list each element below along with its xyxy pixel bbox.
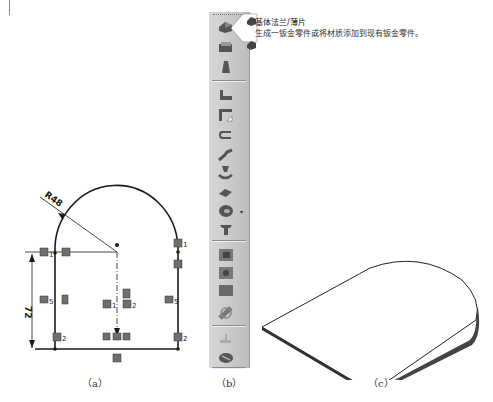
lofted-bend-icon bbox=[217, 59, 235, 75]
corner-relief-icon bbox=[217, 265, 235, 281]
insert-bends-button[interactable] bbox=[215, 330, 237, 348]
caption-a: （a） bbox=[82, 375, 108, 390]
hem-button[interactable] bbox=[215, 126, 237, 144]
edge-flange-button[interactable] bbox=[215, 86, 237, 104]
tooltip-title: 基体法兰/薄片 bbox=[255, 16, 306, 27]
closed-corner-button[interactable] bbox=[215, 202, 237, 220]
radius-dimension: R48 bbox=[43, 189, 65, 208]
jog-button[interactable] bbox=[215, 146, 237, 164]
sketched-bend-icon bbox=[217, 165, 235, 181]
sketched-bend-button[interactable] bbox=[215, 164, 237, 182]
svg-text:5: 5 bbox=[49, 298, 53, 306]
cross-break-icon bbox=[217, 185, 235, 201]
height-dimension: 72 bbox=[23, 306, 33, 319]
lofted-bend-button[interactable] bbox=[215, 58, 237, 76]
welded-corner-icon bbox=[217, 221, 235, 237]
insert-bends-icon bbox=[217, 331, 235, 347]
svg-text:2: 2 bbox=[183, 335, 187, 343]
tooltip: 基体法兰/薄片 生成一钣金零件或将材质添加到现有钣金零件。 bbox=[255, 16, 445, 52]
sheet-metal-toolbar-lower bbox=[209, 296, 250, 368]
edge-marker bbox=[9, 0, 10, 15]
caption-c: （c） bbox=[368, 375, 394, 390]
welded-corner-button[interactable] bbox=[215, 220, 237, 238]
miter-flange-icon bbox=[217, 107, 235, 123]
no-bends-button[interactable] bbox=[215, 304, 237, 322]
svg-text:5: 5 bbox=[174, 298, 178, 306]
rip-icon bbox=[217, 349, 235, 365]
break-corner-button[interactable] bbox=[215, 246, 237, 264]
sheet-metal-part bbox=[250, 180, 493, 380]
tooltip-description: 生成一钣金零件或将材质添加到现有钣金零件。 bbox=[255, 28, 445, 40]
edge-flange-icon bbox=[217, 87, 235, 103]
svg-text:1: 1 bbox=[49, 251, 53, 259]
toolbar-separator bbox=[212, 80, 246, 82]
svg-text:2: 2 bbox=[132, 302, 136, 310]
svg-text:2: 2 bbox=[62, 335, 66, 343]
closed-corner-icon bbox=[217, 203, 235, 219]
cross-break-button[interactable] bbox=[215, 184, 237, 202]
break-corner-icon bbox=[217, 247, 235, 263]
jog-icon bbox=[217, 147, 235, 163]
toolbar-separator bbox=[212, 367, 246, 369]
no-bends-icon bbox=[217, 305, 235, 321]
toolbar-separator bbox=[212, 240, 246, 242]
hem-icon bbox=[217, 127, 235, 143]
closed-corner-dropdown-icon[interactable]: ▾ bbox=[240, 208, 243, 215]
svg-text:1: 1 bbox=[183, 241, 187, 249]
corner-relief-button[interactable] bbox=[215, 264, 237, 282]
caption-b: （b） bbox=[216, 375, 242, 390]
svg-text:1: 1 bbox=[112, 302, 116, 310]
miter-flange-button[interactable] bbox=[215, 106, 237, 124]
rip-button[interactable] bbox=[215, 348, 237, 366]
toolbar-separator bbox=[212, 325, 246, 327]
sketch-panel: R48 72 1 1 5 5 1 2 2 2 bbox=[0, 150, 205, 380]
